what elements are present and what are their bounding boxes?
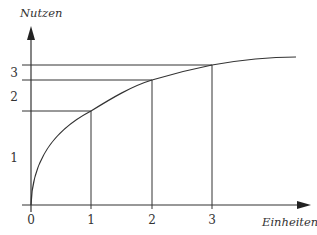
x-tick-0: 0 [27, 213, 35, 227]
x-axis-title: Einheiten [261, 215, 317, 229]
x-axis-arrow-icon [297, 201, 311, 209]
utility-chart: Nutzen Einheiten 0 1 2 3 1 2 3 [0, 0, 317, 235]
y-label-2: 2 [10, 90, 18, 104]
y-axis-title: Nutzen [19, 6, 62, 20]
y-label-1: 1 [10, 151, 18, 165]
y-axis-arrow-icon [27, 26, 35, 40]
x-tick-2: 2 [148, 213, 156, 227]
x-tick-3: 3 [208, 213, 216, 227]
x-tick-1: 1 [87, 213, 95, 227]
utility-curve [31, 57, 296, 205]
y-label-3: 3 [10, 66, 18, 80]
